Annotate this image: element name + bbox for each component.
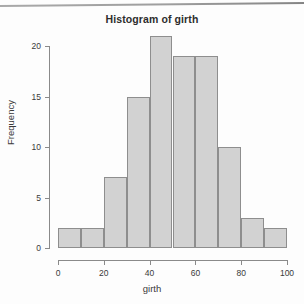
y-axis-tick [45, 248, 50, 249]
histogram-bar [104, 177, 127, 248]
x-axis-tick-label: 80 [226, 268, 256, 278]
y-axis-tick-label: 10 [19, 142, 41, 152]
y-axis-tick-label: 0 [19, 243, 41, 253]
x-axis-tick-label: 0 [43, 268, 73, 278]
histogram-bar [58, 228, 81, 248]
x-axis-tick [104, 260, 105, 265]
histogram-bar [264, 228, 287, 248]
histogram-bar [218, 147, 241, 248]
histogram-bar [195, 56, 218, 248]
x-axis-tick-label: 60 [180, 268, 210, 278]
x-axis-tick [58, 260, 59, 265]
histogram-bar [127, 97, 150, 249]
x-axis-line [58, 260, 287, 261]
x-axis-tick [241, 260, 242, 265]
x-axis-title: girth [0, 283, 304, 294]
histogram-bar [241, 218, 264, 248]
histogram-bar [173, 56, 196, 248]
histogram-plot: Histogram of girth Frequency girth 05101… [0, 0, 304, 304]
histogram-bar [150, 36, 173, 248]
x-axis-tick [195, 260, 196, 265]
y-axis-tick-label: 20 [19, 41, 41, 51]
y-axis-tick [45, 97, 50, 98]
x-axis-tick-label: 40 [135, 268, 165, 278]
y-axis-tick [45, 46, 50, 47]
x-axis-tick [287, 260, 288, 265]
x-axis-tick [150, 260, 151, 265]
x-axis-tick-label: 100 [272, 268, 302, 278]
y-axis-tick-label: 5 [19, 193, 41, 203]
y-axis-tick [45, 147, 50, 148]
histogram-bar [81, 228, 104, 248]
x-axis-tick-label: 20 [89, 268, 119, 278]
y-axis-title: Frequency [5, 83, 16, 163]
chart-title: Histogram of girth [0, 13, 304, 25]
y-axis-tick [45, 198, 50, 199]
y-axis-tick-label: 15 [19, 92, 41, 102]
